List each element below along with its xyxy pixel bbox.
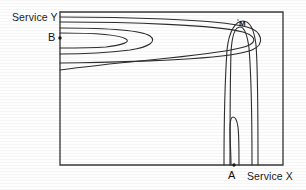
x-axis-label: Service X — [247, 170, 293, 182]
point-b-dot — [58, 36, 61, 39]
curve-b-third — [60, 28, 153, 54]
point-label-m: M — [239, 19, 245, 28]
point-a-dot — [232, 163, 235, 166]
point-label-b: B — [48, 31, 55, 43]
point-label-a: A — [228, 169, 235, 181]
y-axis-label: Service Y — [12, 11, 58, 23]
curve-a-inner — [230, 117, 239, 165]
curve-b-inner — [60, 33, 127, 48]
figure-root: Service Y Service X B A M — [0, 0, 306, 190]
diagram-canvas — [0, 0, 306, 190]
